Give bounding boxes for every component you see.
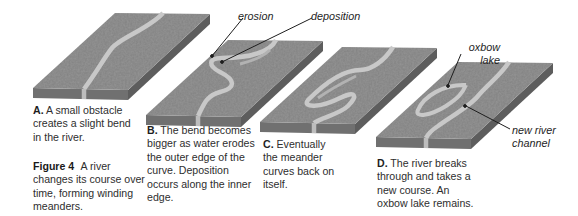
block-a-top xyxy=(33,13,210,90)
figure-caption: Figure 4 A river changes its course over… xyxy=(33,160,148,214)
block-a-front xyxy=(33,88,128,100)
label-erosion: erosion xyxy=(238,10,273,23)
caption-b: B. The bend becomes bigger as water erod… xyxy=(147,124,255,204)
figure-number: Figure 4 xyxy=(33,160,74,172)
label-oxbow-lake: oxbow lake xyxy=(458,41,500,66)
label-new-river-channel: new river channel xyxy=(512,124,556,149)
block-d-front xyxy=(376,137,471,149)
caption-d: D. The river breaks through and takes a … xyxy=(377,157,477,211)
block-c-front xyxy=(260,122,355,134)
label-deposition: deposition xyxy=(311,10,360,23)
caption-c: C. Eventually the meander curves back on… xyxy=(263,138,343,192)
caption-a: A. A small obstacle creates a slight ben… xyxy=(33,104,133,144)
